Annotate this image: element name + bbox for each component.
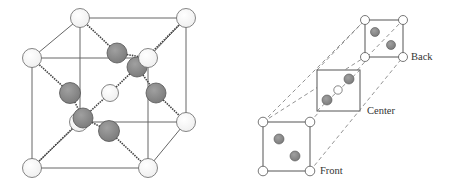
- atom-white-corner: [361, 16, 370, 25]
- atom-shaded: [344, 74, 354, 84]
- atom-white-center: [334, 86, 342, 94]
- atom-shaded: [290, 151, 300, 161]
- atom-shaded: [322, 95, 332, 105]
- atom-white-corner: [23, 49, 42, 68]
- atom-shaded: [107, 43, 127, 63]
- atom-shaded: [274, 134, 284, 144]
- layer-center: Center: [317, 70, 395, 116]
- atom-white-corner: [258, 117, 268, 127]
- atom-white-corner: [71, 9, 90, 28]
- atom-white-corner: [139, 49, 158, 68]
- atom-white-corner: [139, 159, 158, 178]
- atom-shaded: [146, 83, 166, 103]
- layer-back: Back: [361, 16, 434, 63]
- atom-white-corner: [399, 16, 408, 25]
- atom-shaded: [371, 28, 380, 37]
- atom-white-corner: [361, 53, 370, 62]
- unit-cell-diagram: [23, 9, 196, 178]
- atom-shaded: [99, 121, 120, 142]
- atom-white-corner: [305, 166, 315, 176]
- label-back: Back: [411, 51, 433, 62]
- label-center: Center: [367, 105, 395, 116]
- atom-white-corner: [399, 53, 408, 62]
- layer-decomposition-diagram: Back Center Front: [258, 16, 433, 177]
- label-front: Front: [320, 165, 343, 176]
- atom-white-corner: [258, 166, 268, 176]
- atom-white-corner: [177, 9, 196, 28]
- atom-white-corner: [305, 117, 315, 127]
- atom-shaded: [387, 41, 396, 50]
- atom-shaded: [73, 108, 93, 128]
- atom-white-corner: [23, 159, 42, 178]
- atom-white-center: [102, 85, 119, 102]
- atom-white-corner: [177, 113, 196, 132]
- atom-shaded: [60, 83, 81, 104]
- crystal-structure-figure: Back Center Front: [0, 0, 450, 190]
